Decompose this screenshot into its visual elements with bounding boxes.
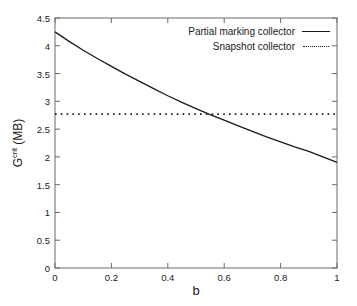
chart-figure: 00.511.522.533.544.5 00.20.40.60.81 b Gc… [0, 0, 357, 306]
solid-line-sample-icon [302, 27, 330, 37]
y-tick-label: 2 [22, 151, 50, 162]
y-tick-label: 0.5 [22, 235, 50, 246]
y-axis-title-superscript: crit [10, 148, 19, 158]
dotted-line-sample-icon [302, 42, 330, 52]
x-tick-label: 0.8 [274, 272, 287, 283]
x-tick-label: 1 [334, 272, 339, 283]
x-tick-label: 0.2 [105, 272, 118, 283]
legend-label: Partial marking collector [188, 26, 295, 37]
legend-label: Snapshot collector [213, 41, 295, 52]
y-tick-label: 3.5 [22, 68, 50, 79]
x-axis-title: b [192, 283, 199, 298]
y-axis-title-unit: (MB) [11, 119, 25, 148]
y-tick-label: 4.5 [22, 13, 50, 24]
y-tick-label: 1.5 [22, 179, 50, 190]
x-tick-label: 0.4 [161, 272, 174, 283]
y-tick-label: 0 [22, 263, 50, 274]
legend-entry-partial-marking-collector: Partial marking collector [140, 24, 330, 39]
plot-frame [55, 18, 337, 268]
y-tick-label: 1 [22, 207, 50, 218]
x-tick-label: 0.6 [218, 272, 231, 283]
y-tick-label: 3 [22, 96, 50, 107]
y-axis-title: Gcrit (MB) [10, 119, 25, 168]
legend-entry-snapshot-collector: Snapshot collector [140, 39, 330, 54]
axis-ticks [55, 18, 337, 268]
y-tick-label: 4 [22, 40, 50, 51]
y-axis-title-base: G [11, 158, 25, 167]
chart-legend: Partial marking collector Snapshot colle… [140, 24, 330, 54]
y-tick-label: 2.5 [22, 124, 50, 135]
x-tick-label: 0 [52, 272, 57, 283]
